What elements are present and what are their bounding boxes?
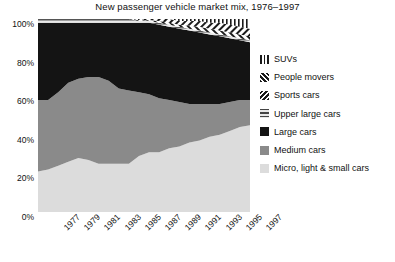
chart-container: New passenger vehicle market mix, 1976–1… [0, 0, 395, 262]
legend-label: People movers [274, 72, 334, 82]
legend-label: SUVs [274, 54, 297, 64]
diagonal-stripe-swatch [260, 73, 269, 82]
horizontal-stripe-swatch [260, 109, 269, 118]
x-tick-label: 1977 [62, 212, 82, 232]
legend-item-0[interactable]: SUVs [260, 50, 395, 68]
solid-black-swatch [260, 127, 269, 136]
x-tick-label: 1993 [223, 212, 243, 232]
back-diagonal-stripe-swatch [260, 91, 269, 100]
legend-item-6[interactable]: Micro, light & small cars [260, 159, 395, 177]
x-tick-label: 1985 [142, 212, 162, 232]
legend-label: Micro, light & small cars [274, 163, 369, 173]
x-tick-label: 1991 [203, 212, 223, 232]
legend-item-3[interactable]: Upper large cars [260, 105, 395, 123]
chart-legend: SUVsPeople moversSports carsUpper large … [260, 50, 395, 177]
x-tick-label: 1979 [82, 212, 102, 232]
legend-label: Upper large cars [274, 109, 341, 119]
x-axis-labels: 1977197919811983198519871989199119931995… [0, 212, 395, 262]
y-tick-label: 20% [0, 173, 34, 183]
x-tick-label: 1997 [264, 212, 284, 232]
y-tick-label: 80% [0, 58, 34, 68]
y-axis-labels: 100%80%60%40%20%0% [0, 12, 34, 220]
y-tick-label: 60% [0, 96, 34, 106]
y-tick-label: 100% [0, 19, 34, 29]
x-tick-label: 1989 [183, 212, 203, 232]
legend-item-5[interactable]: Medium cars [260, 141, 395, 159]
y-tick-label: 40% [0, 135, 34, 145]
x-tick-label: 1983 [122, 212, 142, 232]
stacked-area-svg [38, 19, 250, 212]
legend-item-4[interactable]: Large cars [260, 123, 395, 141]
legend-label: Large cars [274, 127, 317, 137]
light-gray-swatch [260, 164, 269, 173]
chart-title: New passenger vehicle market mix, 1976–1… [0, 1, 395, 12]
legend-label: Sports cars [274, 90, 320, 100]
x-tick-label: 1987 [163, 212, 183, 232]
plot-area [38, 19, 250, 212]
legend-item-2[interactable]: Sports cars [260, 86, 395, 104]
x-tick-label: 1995 [243, 212, 263, 232]
vertical-stripe-swatch [260, 55, 269, 64]
area-bands [38, 19, 250, 212]
mid-gray-swatch [260, 146, 269, 155]
legend-item-1[interactable]: People movers [260, 68, 395, 86]
x-tick-label: 1981 [102, 212, 122, 232]
legend-label: Medium cars [274, 145, 326, 155]
